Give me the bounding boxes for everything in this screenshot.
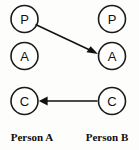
diagram-canvas: P A C P A C xyxy=(0,0,139,150)
ego-state-b-child[interactable]: C xyxy=(99,88,126,115)
transaction-response-arrow[interactable] xyxy=(39,97,98,106)
ego-state-b-adult[interactable]: A xyxy=(99,43,126,70)
transaction-stimulus-arrow[interactable] xyxy=(36,25,99,55)
ego-state-letter: A xyxy=(108,49,117,64)
ego-state-letter: P xyxy=(108,12,117,27)
ego-state-a-parent[interactable]: P xyxy=(11,6,38,33)
person-a-label: Person A xyxy=(11,131,54,143)
ego-state-b-parent[interactable]: P xyxy=(99,6,126,33)
arrow-head-icon xyxy=(87,46,99,54)
ego-state-letter: C xyxy=(20,94,29,109)
transactional-analysis-diagram: P A C P A C xyxy=(0,0,139,150)
ego-state-a-child[interactable]: C xyxy=(11,88,38,115)
ego-state-column-person-a: P A C xyxy=(11,6,38,115)
ego-state-letter: P xyxy=(20,12,29,27)
ego-state-letter: A xyxy=(20,49,29,64)
ego-state-column-person-b: P A C xyxy=(99,6,126,115)
ego-state-letter: C xyxy=(107,94,116,109)
person-b-label: Person B xyxy=(86,131,129,143)
ego-state-a-adult[interactable]: A xyxy=(11,43,38,70)
arrow-head-icon xyxy=(39,97,48,106)
transaction-arrow-shaft xyxy=(36,25,94,52)
